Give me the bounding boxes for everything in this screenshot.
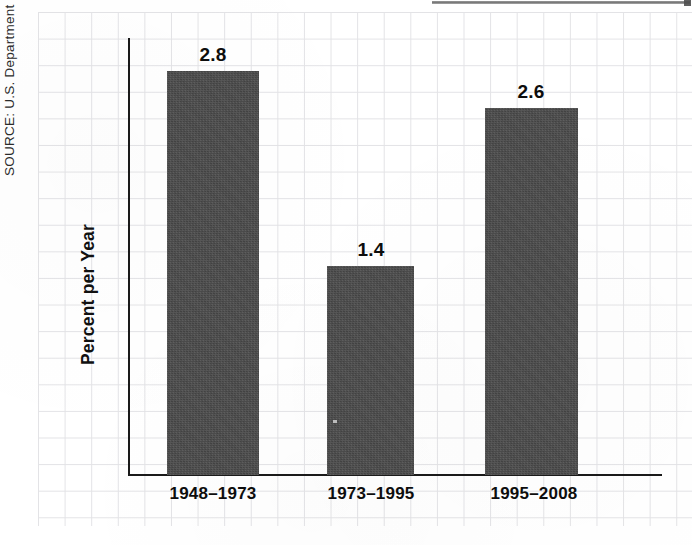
bar-chart: Percent per Year 2.8 1948–1973 1.4 1973–… <box>0 0 692 545</box>
y-axis-line <box>128 38 130 476</box>
bar-value-label-3: 2.6 <box>481 81 581 103</box>
scan-speck-artifact <box>333 420 337 423</box>
bar-value-label-1: 2.8 <box>163 44 263 66</box>
category-label-1995-2008: 1995–2008 <box>471 484 597 504</box>
y-axis-title: Percent per Year <box>78 224 99 365</box>
bar-1995-2008 <box>485 108 578 475</box>
bar-value-label-2: 1.4 <box>321 239 421 261</box>
category-label-1948-1973: 1948–1973 <box>153 484 273 504</box>
bar-1948-1973 <box>167 71 259 475</box>
bar-1973-1995 <box>327 266 414 475</box>
category-label-1973-1995: 1973–1995 <box>311 484 431 504</box>
